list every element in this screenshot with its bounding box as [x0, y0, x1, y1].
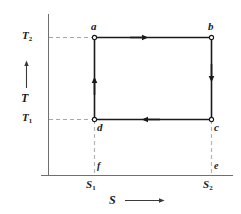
point-label-d: d: [97, 122, 103, 133]
point-label-f: f: [97, 161, 100, 171]
x-tick-label-S1: S1: [86, 179, 96, 192]
figure-canvas: T2 T1 T S S1 S2 a b c d e f: [0, 0, 241, 214]
marker-point-d: [92, 117, 96, 121]
y-tick-label-T2: T2: [22, 30, 32, 43]
y-axis-label: T: [21, 92, 28, 104]
point-label-b: b: [208, 21, 214, 32]
dashed-guides: [49, 38, 212, 176]
marker-point-b: [209, 35, 213, 39]
x-axis-label: S: [109, 194, 116, 206]
marker-point-c: [209, 117, 213, 121]
marker-point-a: [92, 35, 96, 39]
point-label-e: e: [214, 161, 218, 171]
cycle-path: [95, 38, 212, 120]
point-label-c: c: [214, 122, 219, 133]
state-point-markers: [92, 35, 213, 121]
point-label-a: a: [91, 21, 97, 32]
y-tick-label-T1: T1: [22, 112, 32, 125]
x-tick-label-S2: S2: [203, 179, 213, 192]
